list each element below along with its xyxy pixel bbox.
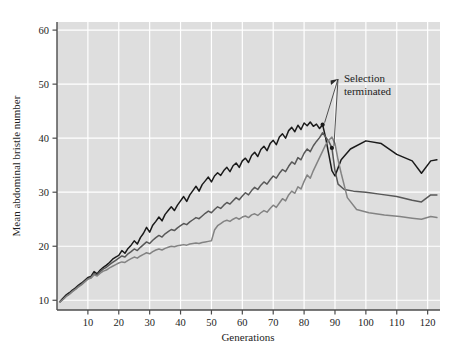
termination-dot: [321, 123, 325, 127]
x-axis-label: Generations: [221, 331, 274, 343]
termination-dot: [330, 146, 334, 150]
annotation-line-1: Selection: [344, 72, 385, 84]
x-tick-label: 80: [299, 317, 310, 328]
y-tick-label: 10: [39, 295, 50, 306]
y-tick-label: 60: [39, 25, 50, 36]
y-tick-label: 50: [39, 79, 50, 90]
x-tick-label: 70: [268, 317, 279, 328]
bristle-number-line-chart: 102030405060708090100110120 102030405060…: [0, 0, 462, 350]
x-tick-label: 90: [330, 317, 341, 328]
x-tick-label: 50: [206, 317, 217, 328]
x-tick-label: 30: [144, 317, 155, 328]
y-tick-label: 30: [39, 187, 50, 198]
y-axis-tick-labels: 102030405060: [39, 25, 50, 306]
x-tick-label: 40: [175, 317, 186, 328]
x-tick-label: 100: [358, 317, 374, 328]
annotation-line-2: terminated: [344, 85, 392, 97]
y-tick-label: 40: [39, 133, 50, 144]
x-tick-label: 10: [83, 317, 94, 328]
chart-figure: 102030405060708090100110120 102030405060…: [0, 0, 462, 350]
x-tick-label: 20: [114, 317, 125, 328]
y-axis-label: Mean abdominal bristle number: [10, 95, 22, 236]
x-tick-label: 110: [389, 317, 404, 328]
x-axis-tick-labels: 102030405060708090100110120: [83, 317, 436, 328]
y-tick-label: 20: [39, 241, 50, 252]
plot-background: [57, 22, 440, 310]
x-tick-label: 60: [237, 317, 248, 328]
x-tick-label: 120: [420, 317, 436, 328]
